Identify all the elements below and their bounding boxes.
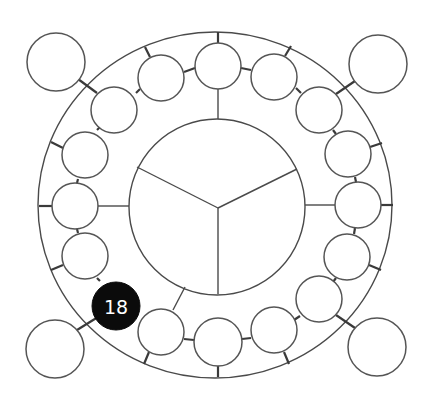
corner-node-top-left[interactable] (27, 33, 85, 91)
node-label: 18 (104, 296, 128, 318)
inner-circle (129, 119, 305, 295)
corner-node-top-right[interactable] (349, 35, 407, 93)
ring-node[interactable] (296, 276, 342, 322)
ring-node[interactable] (91, 87, 137, 133)
ring-node[interactable] (325, 131, 371, 177)
corner-node-bottom-left[interactable] (26, 320, 84, 378)
divider-line (218, 169, 297, 208)
ring-node[interactable] (296, 87, 342, 133)
ring-node[interactable] (194, 318, 242, 366)
ring-node[interactable] (251, 54, 297, 100)
diagram-canvas: 18 (0, 0, 430, 393)
ring-node[interactable] (138, 55, 184, 101)
ring-node[interactable] (62, 132, 108, 178)
ring-node[interactable] (324, 234, 370, 280)
highlighted-node-18[interactable]: 18 (92, 282, 140, 330)
ring-node[interactable] (195, 43, 241, 89)
ring-node[interactable] (138, 309, 184, 355)
ring-node[interactable] (251, 307, 297, 353)
corner-node-bottom-right[interactable] (348, 318, 406, 376)
circular-diagram: 18 (0, 0, 430, 393)
ring-node[interactable] (335, 182, 381, 228)
divider-line (137, 167, 218, 208)
ring-node[interactable] (52, 183, 98, 229)
ring-node[interactable] (62, 233, 108, 279)
